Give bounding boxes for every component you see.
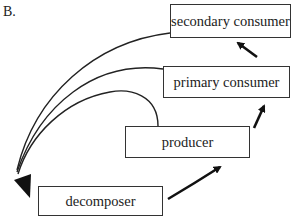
arrowhead-to-decomposer-icon	[14, 174, 31, 198]
node-primary-consumer: primary consumer	[163, 66, 290, 98]
arrow-producer-to-primary	[254, 106, 264, 128]
node-label: secondary consumer	[171, 13, 290, 30]
figure-label: B.	[3, 4, 16, 20]
node-label: producer	[162, 134, 214, 151]
node-decomposer: decomposer	[38, 186, 163, 216]
arrow-decomposer-to-producer	[168, 167, 220, 199]
node-producer: producer	[125, 126, 250, 158]
node-label: decomposer	[65, 193, 135, 210]
node-label: primary consumer	[174, 74, 280, 91]
arrow-primary-to-secondary	[238, 43, 257, 57]
node-secondary-consumer: secondary consumer	[170, 4, 291, 38]
